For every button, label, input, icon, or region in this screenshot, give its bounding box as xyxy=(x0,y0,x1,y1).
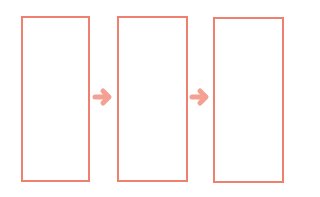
step-box-2 xyxy=(117,16,188,182)
right-arrow-icon xyxy=(189,87,211,107)
step-box-1 xyxy=(21,16,90,182)
step-box-3 xyxy=(213,17,284,183)
right-arrow-icon xyxy=(92,87,114,107)
